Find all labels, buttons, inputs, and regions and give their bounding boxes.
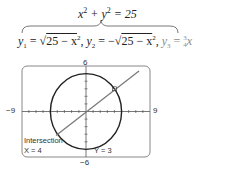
function-definitions: y1 = √25 − x2, y2 = −√25 − x2, y3 = 34x: [18, 34, 192, 50]
intersection-title: Intersection: [24, 136, 63, 145]
xmin-label: −9: [6, 106, 15, 115]
xmax-label: 9: [153, 106, 157, 115]
y3-equation: y3 = 34x: [162, 34, 192, 48]
y-readout: Y = 3: [94, 146, 112, 155]
ymin-label: −6: [80, 158, 89, 167]
y1-equation: y1 = √25 − x2,: [18, 34, 83, 48]
y2-equation: y2 = −√25 − x2,: [86, 34, 158, 48]
brace-icon: [20, 20, 180, 34]
ymax-label: 6: [83, 58, 87, 67]
x-readout: X = 4: [24, 146, 42, 155]
